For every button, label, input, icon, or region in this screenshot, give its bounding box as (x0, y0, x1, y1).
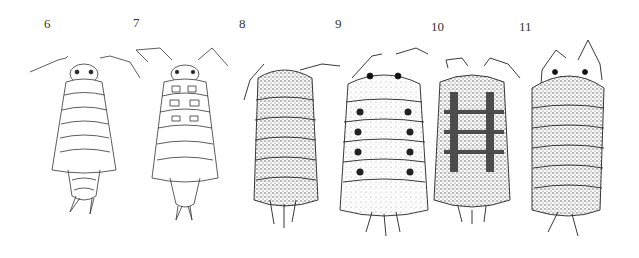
isopod-plate: 6 7 8 9 10 11 (0, 0, 639, 258)
isopod-11 (532, 40, 604, 236)
isopod-10 (434, 58, 520, 224)
isopod-drawings (0, 0, 639, 258)
isopod-9 (340, 48, 428, 236)
isopod-7 (136, 48, 228, 220)
isopod-6 (30, 56, 140, 214)
isopod-8 (244, 64, 340, 228)
